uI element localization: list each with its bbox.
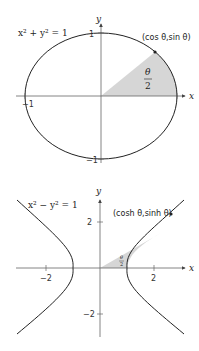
tick-x-pos: 2 xyxy=(151,274,156,283)
tick-top: 1 xyxy=(89,30,94,39)
equation-label: x² + y² = 1 xyxy=(18,28,68,38)
tick-bottom: −1 xyxy=(86,156,98,165)
hyperbolic-sector-shade xyxy=(100,233,161,268)
tick-y-pos: 2 xyxy=(87,218,92,227)
area-label-numerator: θ xyxy=(145,67,151,77)
diagram-canvas: x² + y² = 1 y x 1 −1 −1 (cos θ,sin θ) θ … xyxy=(0,0,199,351)
tick-left: −1 xyxy=(22,100,34,109)
area-label-numerator: θ xyxy=(120,254,123,260)
x-axis-label: x xyxy=(189,91,194,101)
area-label-denominator: 2 xyxy=(120,261,123,267)
sector-shade xyxy=(101,52,177,96)
area-label-denominator: 2 xyxy=(145,81,151,91)
hyperbola-left-branch xyxy=(17,200,73,334)
y-axis-label: y xyxy=(95,14,102,24)
x-axis-label: x xyxy=(189,263,194,273)
y-axis-label: y xyxy=(95,186,102,196)
point-label: (cos θ,sin θ) xyxy=(142,33,191,42)
point-marker xyxy=(153,50,156,53)
tick-x-neg: −2 xyxy=(40,274,52,283)
hyperbola-figure: x² − y² = 1 y x −2 2 2 −2 (cosh θ,sinh θ… xyxy=(16,186,194,337)
circle-figure: x² + y² = 1 y x 1 −1 −1 (cos θ,sin θ) θ … xyxy=(16,14,194,165)
tick-y-neg: −2 xyxy=(83,310,95,319)
equation-label: x² − y² = 1 xyxy=(28,200,78,210)
hyperbola-right-branch xyxy=(127,200,184,334)
point-label: (cosh θ,sinh θ) xyxy=(113,209,172,218)
